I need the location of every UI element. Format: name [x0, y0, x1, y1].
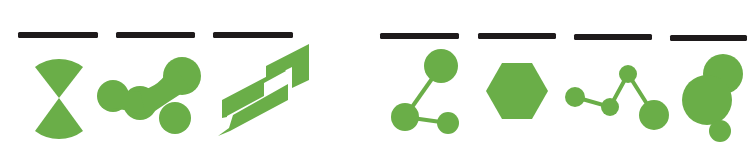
label-bar-5 [478, 33, 556, 39]
label-bar-4 [380, 33, 459, 39]
label-bar-3 [213, 32, 293, 38]
molecule-icon [391, 49, 459, 134]
icon-legend-svg [0, 0, 752, 157]
layered-strips-icon [218, 44, 309, 136]
blob-chain-icon [97, 57, 201, 134]
label-bar-2 [116, 32, 195, 38]
hexagon-icon [486, 63, 548, 119]
label-bar-1 [18, 32, 98, 38]
icon-legend-canvas [0, 0, 752, 157]
label-bar-7 [670, 35, 747, 41]
hourglass-sectors-icon [35, 59, 83, 139]
label-bar-6 [574, 34, 652, 40]
node-chain-icon [565, 65, 669, 130]
circle-cluster-icon [682, 54, 743, 142]
label-bars [18, 32, 747, 41]
